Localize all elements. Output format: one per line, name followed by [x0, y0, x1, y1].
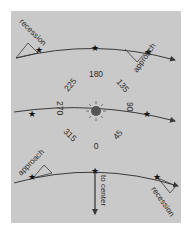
star-icon: ★ [91, 43, 99, 53]
angle-180: 180 [89, 69, 103, 79]
middle-orbit: ★ ★ [14, 101, 175, 121]
angle-225: 225 [62, 76, 79, 94]
star-icon: ★ [153, 172, 161, 182]
angle-0: 0 [94, 141, 99, 151]
star-icon: ★ [28, 109, 36, 119]
angle-135: 135 [114, 77, 131, 95]
angle-315: 315 [62, 126, 79, 143]
angle-90: 90 [125, 102, 135, 112]
orbit-diagram: ★ ★ ★ ★ ★ ★ ★ ★ [0, 0, 192, 237]
label-to-center: to center [99, 175, 108, 206]
label-recession-top: recession [18, 17, 49, 48]
angle-270: 270 [55, 101, 65, 115]
star-icon: ★ [143, 109, 151, 119]
sun-icon [86, 101, 106, 121]
star-icon: ★ [28, 172, 36, 182]
angle-45: 45 [111, 127, 125, 141]
